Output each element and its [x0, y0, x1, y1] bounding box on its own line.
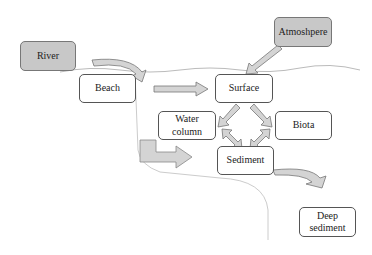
sediment-label: Sediment [227, 154, 265, 167]
atmosphere-label: Atmoshpere [279, 26, 328, 39]
node-atmosphere: Atmoshpere [274, 17, 332, 47]
node-beach: Beach [79, 74, 136, 103]
node-biota: Biota [275, 111, 332, 140]
atmosphere-to-surface-arrow [246, 45, 282, 74]
beach-label: Beach [95, 82, 120, 95]
deep-sediment-label: Deep sediment [308, 210, 348, 235]
node-deep-sediment: Deep sediment [299, 207, 356, 237]
water-surface-line [60, 65, 360, 72]
node-river: River [20, 41, 76, 71]
node-sediment: Sediment [217, 146, 274, 175]
surface-label: Surface [229, 82, 260, 95]
river-label: River [37, 50, 59, 63]
deposition-arrow [140, 140, 192, 168]
beach-to-surface-arrow [154, 82, 208, 96]
node-water-column: Water column [158, 111, 216, 140]
surface-to-biota-arrow [250, 104, 272, 127]
node-surface: Surface [215, 74, 273, 103]
surface-to-water-column-arrow [218, 104, 240, 127]
water-column-label: Water column [159, 113, 215, 138]
biota-label: Biota [293, 119, 315, 132]
sediment-to-deep-arrow [273, 169, 326, 188]
